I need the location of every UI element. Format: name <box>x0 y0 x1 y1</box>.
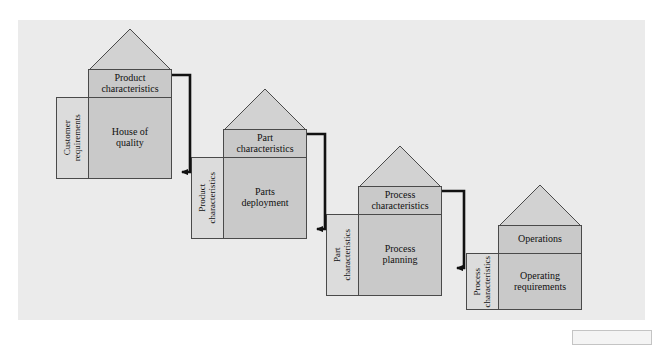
side-operating-requirements: Process characteristics <box>466 253 499 310</box>
head-operating-requirements: Operations <box>498 225 582 254</box>
head-line1: Operations <box>518 233 562 244</box>
body-line2: requirements <box>514 281 566 292</box>
side-line2: characteristics <box>482 256 492 307</box>
side-label-operating-requirements: Process characteristics <box>473 256 492 307</box>
body-operating-requirements: Operating requirements <box>498 253 582 310</box>
head-label-operating-requirements: Operations <box>518 234 562 245</box>
figure-root: Product characteristics House of quality… <box>0 0 661 345</box>
house-operating-requirements: Operations Operating requirements Proces… <box>0 0 661 345</box>
body-label-operating-requirements: Operating requirements <box>514 271 566 293</box>
side-line1: Process <box>472 268 482 296</box>
qfd-cascade-diagram: Product characteristics House of quality… <box>0 0 661 345</box>
body-line1: Operating <box>520 270 560 281</box>
caption-placeholder-box <box>572 330 652 345</box>
